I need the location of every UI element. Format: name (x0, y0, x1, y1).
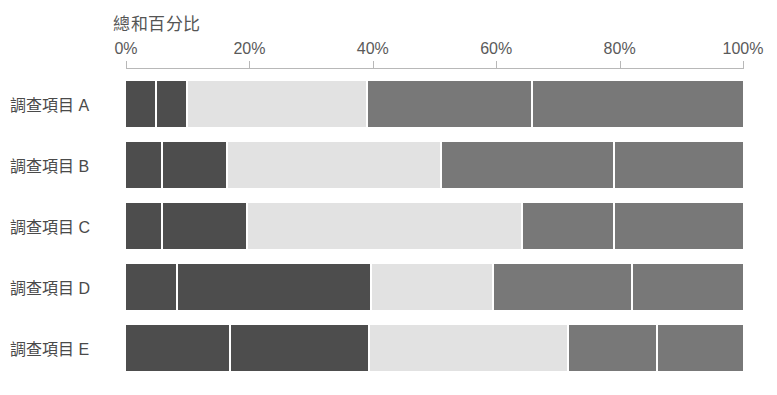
bar-row: 調查項目 A (0, 81, 777, 127)
bar-category-label: 調查項目 D (10, 275, 120, 299)
x-tick-label: 20% (233, 40, 265, 58)
bar-row: 調查項目 D (0, 264, 777, 310)
stacked-bar-chart: 總和百分比 0%20%40%60%80%100% 調查項目 A調查項目 B調查項… (0, 0, 777, 395)
bar-row: 調查項目 C (0, 203, 777, 249)
x-axis-tick (249, 61, 250, 69)
bar-track (126, 264, 743, 310)
bar-segment (178, 264, 372, 310)
bar-segment (163, 142, 228, 188)
x-tick-label: 0% (114, 40, 137, 58)
x-axis-tick (373, 61, 374, 69)
x-axis-tick (496, 61, 497, 69)
x-axis-tick-labels: 0%20%40%60%80%100% (0, 40, 777, 62)
bar-segment (442, 142, 615, 188)
bar-segment (372, 264, 494, 310)
bar-segment (368, 81, 533, 127)
bar-segment (126, 264, 178, 310)
x-axis-line (126, 68, 743, 69)
bar-segment (126, 142, 163, 188)
bar-segment (228, 142, 442, 188)
x-tick-label: 80% (604, 40, 636, 58)
bar-segment (163, 203, 248, 249)
bar-track (126, 81, 743, 127)
bar-row: 調查項目 B (0, 142, 777, 188)
bar-segment (633, 264, 743, 310)
bar-segment (615, 142, 743, 188)
bar-segment (231, 325, 370, 371)
bar-segment (494, 264, 633, 310)
bar-segment (188, 81, 368, 127)
axis-title: 總和百分比 (113, 10, 201, 35)
bar-segment (569, 325, 658, 371)
bar-segment (126, 325, 231, 371)
bar-segment (126, 81, 157, 127)
x-tick-label: 60% (480, 40, 512, 58)
x-tick-label: 40% (357, 40, 389, 58)
plot-area: 調查項目 A調查項目 B調查項目 C調查項目 D調查項目 E (0, 76, 777, 395)
x-axis-tick (743, 61, 744, 69)
x-axis-tick (126, 61, 127, 69)
bar-segment (523, 203, 615, 249)
bar-segment (658, 325, 743, 371)
bar-row: 調查項目 E (0, 325, 777, 371)
x-axis-tick (620, 61, 621, 69)
bar-segment (126, 203, 163, 249)
bar-track (126, 203, 743, 249)
bar-track (126, 142, 743, 188)
bar-segment (370, 325, 569, 371)
bar-segment (157, 81, 188, 127)
bar-track (126, 325, 743, 371)
bar-segment (248, 203, 523, 249)
bar-segment (615, 203, 743, 249)
bar-category-label: 調查項目 E (10, 336, 120, 360)
x-tick-label: 100% (723, 40, 764, 58)
bar-category-label: 調查項目 B (10, 153, 120, 177)
bar-category-label: 調查項目 C (10, 214, 120, 238)
bar-category-label: 調查項目 A (10, 92, 120, 116)
bar-segment (533, 81, 743, 127)
